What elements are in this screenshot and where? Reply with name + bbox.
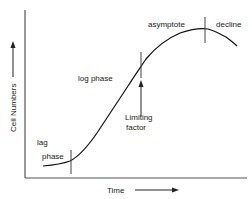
log-phase-label: log phase	[78, 74, 113, 83]
limiting-factor-label-line1: Limiting	[125, 113, 153, 122]
limiting-factor-label-line2: factor	[126, 123, 146, 132]
limiting-factor-arrowhead-icon	[139, 80, 144, 87]
asymptote-label: asymptote	[148, 20, 185, 29]
growth-curve-diagram: Cell Numbers Time lag phase log phase Li…	[0, 0, 252, 199]
decline-label: decline	[216, 20, 242, 29]
lag-label-line1: lag	[37, 138, 48, 147]
y-axis-label: Cell Numbers	[9, 84, 18, 132]
x-axis-arrowhead-icon	[172, 188, 179, 193]
lag-label-line2: phase	[42, 152, 64, 161]
x-axis-label: Time	[107, 186, 125, 195]
y-axis-arrowhead-icon	[11, 41, 16, 48]
growth-curve	[43, 29, 237, 166]
